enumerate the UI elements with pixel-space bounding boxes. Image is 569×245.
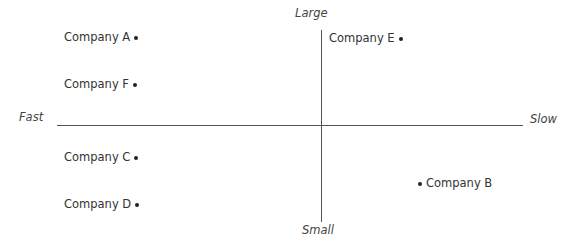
positioning-map: Large Small Fast Slow Company A Company … — [0, 0, 569, 245]
dot-icon — [133, 83, 137, 87]
dot-icon — [134, 156, 138, 160]
point-label: Company A — [64, 30, 130, 44]
axis-label-bottom: Small — [302, 223, 334, 237]
vertical-axis — [321, 30, 322, 222]
point-company-b: Company B — [414, 176, 492, 190]
point-label: Company D — [64, 197, 131, 211]
point-company-e: Company E — [329, 31, 407, 45]
point-company-c: Company C — [64, 150, 142, 164]
dot-icon — [135, 203, 139, 207]
axis-label-top: Large — [295, 6, 328, 20]
point-label: Company F — [64, 77, 129, 91]
point-label: Company C — [64, 150, 130, 164]
dot-icon — [399, 37, 403, 41]
point-label: Company E — [329, 31, 395, 45]
dot-icon — [418, 182, 422, 186]
point-company-a: Company A — [64, 30, 142, 44]
axis-label-right: Slow — [530, 112, 557, 126]
horizontal-axis — [57, 125, 523, 126]
axis-label-left: Fast — [19, 110, 43, 124]
point-company-f: Company F — [64, 77, 141, 91]
dot-icon — [134, 36, 138, 40]
point-label: Company B — [426, 176, 492, 190]
point-company-d: Company D — [64, 197, 143, 211]
